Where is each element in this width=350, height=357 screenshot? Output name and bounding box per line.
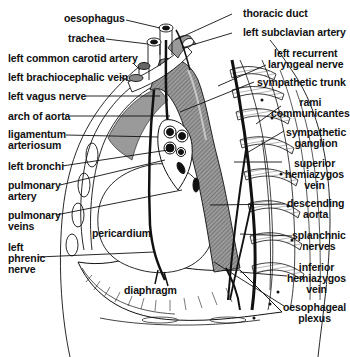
- label-left-phrenic-nerve-line3: nerve: [8, 264, 45, 275]
- label-ligamentum-arteriosum: ligamentum arteriosum: [8, 129, 66, 151]
- label-superior-hemiazygos-vein-line3: vein: [285, 180, 344, 191]
- label-left-brachiocephalic-vein: left brachiocephalic vein: [8, 72, 128, 83]
- label-oesophageal-plexus: oesophageal plexus: [283, 302, 346, 324]
- label-left-phrenic-nerve: left phrenic nerve: [8, 242, 45, 275]
- label-thoracic-duct: thoracic duct: [243, 8, 308, 19]
- label-arch-of-aorta: arch of aorta: [8, 111, 70, 122]
- label-trachea: trachea: [68, 33, 105, 44]
- label-rami-communicantes: rami communicantes: [271, 97, 350, 119]
- label-splanchnic-nerves-line2: nerves: [292, 241, 346, 252]
- label-descending-aorta-line2: aorta: [287, 209, 344, 220]
- label-rami-communicantes-line2: communicantes: [271, 108, 350, 119]
- label-sympathetic-ganglion-line2: ganglion: [286, 138, 346, 149]
- label-pulmonary-artery: pulmonary artery: [8, 180, 61, 202]
- label-splanchnic-nerves: splanchnic nerves: [292, 230, 346, 252]
- label-oesophagus: oesophagus: [64, 13, 125, 24]
- label-descending-aorta: descending aorta: [287, 198, 344, 220]
- label-sympathetic-ganglion: sympathetic ganglion: [286, 127, 346, 149]
- label-oesophageal-plexus-line2: plexus: [283, 313, 346, 324]
- label-pericardium: pericardium: [92, 228, 151, 239]
- label-ligamentum-arteriosum-line2: arteriosum: [8, 140, 66, 151]
- label-left-bronchi: left bronchi: [8, 161, 64, 172]
- label-inferior-hemiazygos-vein-line3: vein: [287, 284, 346, 295]
- label-left-vagus-nerve: left vagus nerve: [8, 91, 86, 102]
- label-pulmonary-veins: pulmonary veins: [8, 210, 61, 232]
- label-left-recurrent-laryngeal-nerve-line2: laryngeal nerve: [268, 59, 344, 70]
- label-diaphragm: diaphragm: [124, 285, 177, 296]
- label-left-recurrent-laryngeal-nerve: left recurrent laryngeal nerve: [268, 48, 344, 70]
- label-superior-hemiazygos-vein: superior hemiazygos vein: [285, 158, 344, 191]
- label-inferior-hemiazygos-vein: inferior hemiazygos vein: [287, 262, 346, 295]
- label-pulmonary-artery-line2: artery: [8, 191, 61, 202]
- label-pulmonary-veins-line2: veins: [8, 221, 61, 232]
- label-left-common-carotid-artery: left common carotid artery: [8, 53, 138, 64]
- label-left-subclavian-artery: left subclavian artery: [243, 27, 346, 38]
- label-sympathetic-trunk: sympathetic trunk: [257, 77, 346, 88]
